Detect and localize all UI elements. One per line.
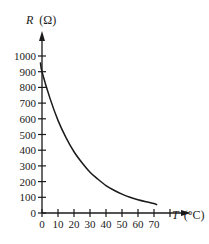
x-axis-variable: T xyxy=(172,208,180,222)
x-axis xyxy=(42,210,191,216)
x-tick-label: 60 xyxy=(133,218,145,230)
resistance-temperature-chart: 01002003004005006007008009001000 0102030… xyxy=(0,0,209,244)
y-axis-variable: R xyxy=(25,13,34,27)
y-axis-ticks: 01002003004005006007008009001000 xyxy=(14,50,46,219)
y-tick-label: 900 xyxy=(20,66,37,78)
resistance-curve xyxy=(40,62,157,205)
x-tick-label: 40 xyxy=(101,218,113,230)
y-tick-label: 800 xyxy=(20,81,37,93)
x-axis-title: T (°C) xyxy=(172,208,204,222)
y-tick-label: 500 xyxy=(20,129,37,141)
y-tick-label: 600 xyxy=(20,113,37,125)
y-tick-label: 300 xyxy=(20,160,37,172)
y-tick-label: 200 xyxy=(20,176,37,188)
x-axis-unit: (°C) xyxy=(184,208,205,222)
x-tick-label: 70 xyxy=(149,218,161,230)
y-tick-label: 700 xyxy=(20,97,37,109)
y-axis xyxy=(39,31,45,213)
y-tick-label: 400 xyxy=(20,144,37,156)
x-tick-label: 0 xyxy=(39,218,45,230)
y-tick-label: 1000 xyxy=(14,50,37,62)
y-axis-unit: (Ω) xyxy=(39,13,56,27)
y-tick-label: 0 xyxy=(31,207,37,219)
y-axis-title: R (Ω) xyxy=(25,13,56,27)
y-tick-label: 100 xyxy=(20,191,37,203)
y-axis-arrow-icon xyxy=(39,31,45,41)
x-axis-ticks: 010203040506070 xyxy=(39,209,170,230)
x-tick-label: 30 xyxy=(85,218,97,230)
x-tick-label: 50 xyxy=(117,218,129,230)
x-tick-label: 20 xyxy=(69,218,81,230)
plot-curve xyxy=(40,62,157,205)
x-tick-label: 10 xyxy=(53,218,65,230)
